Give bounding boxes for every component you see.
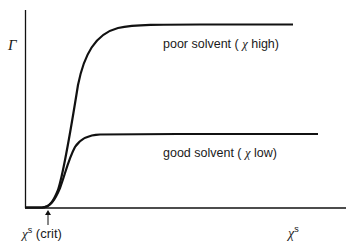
poor-solvent-label: poor solvent ( χ high) (163, 37, 279, 52)
poor-label-pre: poor solvent ( (163, 37, 242, 51)
good-label-pre: good solvent ( (163, 146, 245, 160)
x-axis-label: χs (288, 224, 299, 242)
poor-label-post: high) (248, 37, 279, 51)
crit-label: χs (crit) (22, 225, 62, 242)
crit-suffix: (crit) (32, 226, 62, 241)
arrow-up-icon (45, 210, 51, 215)
good-solvent-label: good solvent ( χ low) (163, 146, 277, 161)
x-axis-superscript: s (294, 224, 299, 234)
y-axis-label: Γ (8, 37, 17, 54)
good-label-post: low) (251, 146, 277, 160)
